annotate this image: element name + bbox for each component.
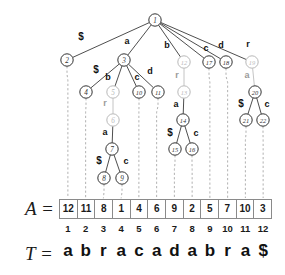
array-cell: 4 bbox=[131, 200, 149, 218]
array-cell: 9 bbox=[166, 200, 184, 218]
text-character: b bbox=[77, 240, 95, 262]
suffix-tree-figure: 12345678910111213141516171819202122 $abc… bbox=[0, 0, 285, 275]
edge-label: c bbox=[123, 156, 128, 166]
tree-node-label: 8 bbox=[102, 175, 106, 183]
tree-edge bbox=[185, 126, 190, 143]
tree-node-label: 14 bbox=[180, 117, 187, 124]
position-index: 8 bbox=[183, 223, 201, 237]
tree-node-label: 18 bbox=[223, 59, 230, 66]
tree-node-label: 12 bbox=[181, 59, 188, 66]
edge-label: r bbox=[103, 98, 107, 108]
position-index: 5 bbox=[130, 223, 148, 237]
position-index: 12 bbox=[254, 223, 272, 237]
edge-label: b bbox=[105, 72, 111, 82]
tree-node-label: 4 bbox=[84, 89, 88, 97]
position-index: 6 bbox=[148, 223, 166, 237]
leaf-array-dashed-link bbox=[103, 184, 104, 198]
leaf-array-dashed-link bbox=[174, 155, 175, 198]
tree-node-label: 22 bbox=[260, 117, 267, 124]
edge-label: $ bbox=[93, 64, 99, 75]
text-equals-label: T = bbox=[25, 243, 53, 265]
leaf-array-dashed-link bbox=[157, 98, 158, 198]
text-character: a bbox=[112, 240, 130, 262]
edge-label: r bbox=[175, 70, 179, 80]
edge-label: $ bbox=[96, 155, 102, 166]
tree-node-label: 5 bbox=[111, 89, 115, 97]
position-index: 9 bbox=[201, 223, 219, 237]
edge-label: d bbox=[218, 40, 224, 50]
text-character: b bbox=[201, 240, 219, 262]
tree-node-label: 20 bbox=[252, 89, 259, 96]
text-character: a bbox=[237, 240, 255, 262]
position-index: 3 bbox=[95, 223, 113, 237]
array-cell: 3 bbox=[254, 200, 271, 218]
position-index: 11 bbox=[237, 223, 255, 237]
tree-node-label: 13 bbox=[181, 89, 187, 96]
tree-node-label: 19 bbox=[249, 59, 256, 66]
tree-edge bbox=[128, 25, 151, 55]
leaf-array-dashed-link bbox=[121, 184, 122, 198]
text-character: c bbox=[130, 240, 148, 262]
edge-label: c bbox=[134, 72, 139, 82]
array-cell: 2 bbox=[184, 200, 202, 218]
leaf-to-array-links bbox=[67, 66, 263, 198]
array-cell: 6 bbox=[148, 200, 166, 218]
edge-label: $ bbox=[78, 31, 84, 42]
position-index: 4 bbox=[112, 223, 130, 237]
edge-label: a bbox=[124, 36, 130, 46]
edge-label: c bbox=[193, 128, 198, 138]
tree-node-label: 7 bbox=[110, 146, 114, 154]
text-character: d bbox=[166, 240, 184, 262]
tree-edge bbox=[183, 98, 184, 114]
array-cell: 11 bbox=[78, 200, 96, 218]
edge-label: $ bbox=[167, 127, 173, 138]
text-character: a bbox=[183, 240, 201, 262]
edge-label: $ bbox=[238, 98, 244, 109]
array-cell: 12 bbox=[60, 200, 78, 218]
edge-label: r bbox=[246, 39, 250, 49]
suffix-array-box: 121181469257103 bbox=[59, 199, 272, 219]
text-character: r bbox=[219, 240, 237, 262]
tree-edge bbox=[106, 155, 111, 172]
tree-node-label: 11 bbox=[155, 89, 161, 96]
index-row: 123456789101112 bbox=[59, 223, 272, 237]
tree-edge bbox=[257, 98, 262, 114]
edge-label: a bbox=[102, 127, 108, 137]
array-cell: 10 bbox=[237, 200, 255, 218]
tree-edge bbox=[248, 98, 253, 114]
array-equals-label: A = bbox=[25, 198, 54, 220]
tree-node-label: 21 bbox=[243, 117, 249, 124]
tree-edge bbox=[73, 23, 150, 58]
text-character: r bbox=[95, 240, 113, 262]
text-character: a bbox=[148, 240, 166, 262]
text-character: a bbox=[59, 240, 77, 262]
tree-node-label: 1 bbox=[153, 17, 157, 25]
tree-node-label: 2 bbox=[65, 57, 69, 65]
text-character: $ bbox=[254, 240, 272, 262]
tree-edge bbox=[114, 155, 120, 172]
array-cell: 7 bbox=[219, 200, 237, 218]
position-index: 10 bbox=[219, 223, 237, 237]
edge-label: d bbox=[147, 66, 153, 76]
tree-edge bbox=[112, 126, 113, 143]
tree-node-label: 16 bbox=[189, 146, 196, 153]
tree-node-label: 3 bbox=[121, 57, 126, 65]
position-index: 1 bbox=[59, 223, 77, 237]
edge-label: a bbox=[173, 99, 179, 109]
text-row: abracadabra$ bbox=[59, 240, 272, 262]
tree-node-label: 10 bbox=[136, 89, 143, 96]
tree-node-label: 17 bbox=[206, 59, 213, 66]
position-index: 7 bbox=[166, 223, 184, 237]
edge-label: c bbox=[264, 99, 269, 109]
array-cell: 8 bbox=[95, 200, 113, 218]
leaf-array-dashed-link bbox=[209, 68, 210, 198]
tree-edge bbox=[253, 68, 255, 86]
array-cell: 5 bbox=[201, 200, 219, 218]
tree-edge bbox=[161, 22, 247, 59]
leaf-array-dashed-link bbox=[245, 126, 246, 198]
leaf-array-dashed-link bbox=[67, 66, 68, 198]
tree-node-label: 9 bbox=[120, 175, 124, 183]
leaf-array-dashed-link bbox=[226, 68, 228, 198]
tree-node-label: 6 bbox=[111, 117, 115, 125]
position-index: 2 bbox=[77, 223, 95, 237]
